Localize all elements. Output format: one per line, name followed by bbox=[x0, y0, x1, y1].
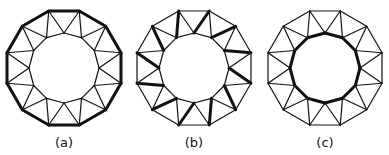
inner-edge bbox=[224, 68, 229, 86]
spoke bbox=[355, 26, 366, 50]
spoke bbox=[340, 98, 342, 125]
spoke bbox=[99, 53, 121, 68]
inner-edge bbox=[29, 51, 34, 69]
spoke bbox=[325, 11, 340, 33]
inner-edge bbox=[82, 38, 95, 51]
spoke bbox=[308, 98, 310, 125]
spoke bbox=[343, 98, 367, 109]
inner-edge bbox=[194, 98, 212, 103]
inner-edge bbox=[308, 98, 326, 103]
inner-edge bbox=[343, 86, 356, 99]
outer-edge bbox=[367, 26, 382, 52]
inner-edge bbox=[212, 86, 225, 99]
spoke bbox=[82, 26, 106, 37]
spoke bbox=[268, 83, 295, 85]
spoke bbox=[283, 98, 307, 109]
outer-edge bbox=[367, 83, 382, 109]
outer-edge bbox=[22, 11, 48, 26]
diagram-canvas bbox=[0, 0, 389, 155]
spoke bbox=[94, 86, 105, 110]
inner-edge bbox=[355, 68, 360, 86]
spoke bbox=[7, 68, 29, 83]
inner-edge bbox=[94, 51, 99, 69]
inner-edge bbox=[64, 33, 82, 38]
spoke bbox=[79, 98, 81, 125]
spoke bbox=[7, 53, 29, 68]
spoke bbox=[224, 86, 235, 110]
spoke bbox=[308, 11, 310, 38]
spoke bbox=[179, 11, 194, 33]
spoke bbox=[325, 103, 340, 125]
spoke bbox=[152, 26, 163, 50]
spoke bbox=[137, 83, 164, 85]
spoke bbox=[283, 26, 307, 37]
spoke bbox=[360, 68, 382, 83]
spoke bbox=[283, 26, 294, 50]
spoke bbox=[177, 98, 179, 125]
inner-edge bbox=[159, 51, 164, 69]
outer-edge bbox=[236, 26, 251, 52]
outer-edge bbox=[79, 110, 105, 125]
inner-edge bbox=[47, 33, 65, 38]
diagram-b bbox=[137, 11, 251, 125]
inner-edge bbox=[224, 51, 229, 69]
inner-edge bbox=[295, 86, 308, 99]
spoke bbox=[360, 53, 382, 68]
inner-edge bbox=[290, 51, 295, 69]
spoke bbox=[355, 86, 366, 110]
spoke bbox=[224, 83, 251, 85]
outer-edge bbox=[106, 83, 121, 109]
spoke bbox=[209, 98, 211, 125]
spoke bbox=[22, 86, 33, 110]
spoke bbox=[137, 51, 164, 53]
inner-edge bbox=[355, 51, 360, 69]
spoke bbox=[47, 98, 49, 125]
outer-edge bbox=[340, 11, 366, 26]
outer-edge bbox=[283, 110, 309, 125]
inner-edge bbox=[64, 98, 82, 103]
spoke bbox=[310, 103, 325, 125]
inner-edge bbox=[94, 68, 99, 86]
spoke bbox=[343, 26, 367, 37]
spoke bbox=[94, 26, 105, 50]
spoke bbox=[94, 83, 121, 85]
spoke bbox=[194, 11, 209, 33]
inner-edge bbox=[343, 38, 356, 51]
inner-edge bbox=[177, 33, 195, 38]
inner-edge bbox=[47, 98, 65, 103]
spoke bbox=[229, 68, 251, 83]
inner-edge bbox=[295, 38, 308, 51]
outer-edge bbox=[152, 110, 178, 125]
outer-edge bbox=[137, 26, 152, 52]
spoke bbox=[224, 51, 251, 53]
spoke bbox=[268, 51, 295, 53]
outer-edge bbox=[137, 83, 152, 109]
spoke bbox=[22, 98, 46, 109]
inner-edge bbox=[159, 68, 164, 86]
spoke bbox=[22, 26, 33, 50]
outer-edge bbox=[7, 83, 22, 109]
spoke bbox=[194, 103, 209, 125]
spoke bbox=[209, 11, 211, 38]
spoke bbox=[82, 98, 106, 109]
outer-edge bbox=[209, 110, 235, 125]
spoke bbox=[212, 26, 236, 37]
spoke bbox=[177, 11, 179, 38]
diagram-c bbox=[268, 11, 382, 125]
inner-edge bbox=[290, 68, 295, 86]
inner-edge bbox=[212, 38, 225, 51]
inner-edge bbox=[164, 38, 177, 51]
outer-edge bbox=[152, 11, 178, 26]
spoke bbox=[137, 68, 159, 83]
spoke bbox=[137, 53, 159, 68]
spoke bbox=[229, 53, 251, 68]
spoke bbox=[355, 51, 382, 53]
spoke bbox=[152, 98, 176, 109]
inner-edge bbox=[194, 33, 212, 38]
spoke bbox=[64, 11, 79, 33]
spoke bbox=[310, 11, 325, 33]
outer-edge bbox=[283, 11, 309, 26]
inner-edge bbox=[325, 33, 343, 38]
spoke bbox=[49, 11, 64, 33]
inner-edge bbox=[325, 98, 343, 103]
